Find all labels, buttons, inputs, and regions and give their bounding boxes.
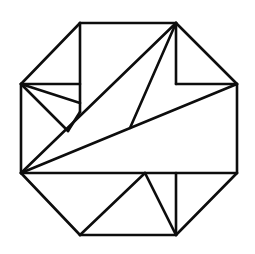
octagon-line-figure xyxy=(0,0,255,254)
octagon-edge-lower-right xyxy=(176,173,237,235)
inner-long-diagonal-main xyxy=(21,23,176,173)
octagon-edge-lower-left xyxy=(21,173,80,235)
inner-bottom-right-diagonal xyxy=(145,173,176,235)
figure-canvas xyxy=(0,0,255,254)
octagon-edge-upper-right xyxy=(176,23,237,84)
inner-bottom-left-diagonal xyxy=(80,173,145,235)
octagon-edge-upper-left xyxy=(21,23,80,84)
octagon-interior-lines xyxy=(21,23,237,235)
